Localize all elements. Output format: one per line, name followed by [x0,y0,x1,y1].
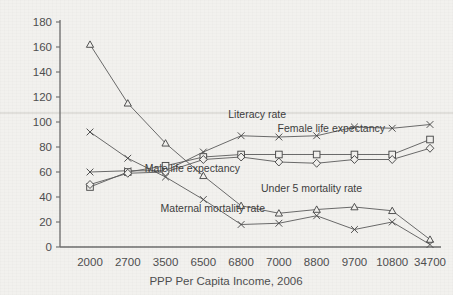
data-point-square [427,136,434,143]
data-series-group [86,41,434,248]
y-tick-label: 160 [33,41,52,53]
data-point-triangle [124,100,131,106]
series-polyline [90,140,430,188]
data-point-x [87,129,94,136]
y-tick-label: 0 [46,241,52,253]
y-tick-label: 80 [39,141,52,153]
data-point-x [351,226,358,233]
x-tick-label: 10800 [376,256,408,268]
x-tick-label: 34700 [414,256,446,268]
y-tick-label: 120 [33,91,52,103]
series-label: Female life expectancy [278,122,386,134]
series-male-life-expectancy [86,144,434,188]
x-axis: 2000270035006500680070008800970010800347… [60,247,446,268]
series-label: Male life expectancy [145,162,241,174]
y-tick-label: 100 [33,116,52,128]
data-point-triangle [86,41,93,47]
data-point-diamond [426,144,434,152]
data-point-square [276,151,283,158]
data-point-x [124,155,131,162]
data-point-diamond [313,159,321,167]
series-polyline [90,132,430,245]
x-tick-label: 7000 [266,256,292,268]
data-point-triangle [351,203,358,209]
chart-canvas: 020406080100120140160180 200027003500650… [0,0,453,295]
y-tick-label: 60 [39,166,52,178]
data-point-x [313,212,320,219]
y-tick-label: 20 [39,216,52,228]
x-tick-label: 6800 [228,256,254,268]
series-label: Under 5 mortality rate [261,182,362,194]
y-tick-label: 180 [33,16,52,28]
series-label: Maternal mortality rate [161,202,266,214]
series-annotations: Literacy rateFemale life expectancyMale … [145,108,386,214]
data-point-diamond [275,158,283,166]
y-tick-label: 140 [33,66,52,78]
x-tick-label: 3500 [153,256,179,268]
x-tick-label: 2000 [77,256,103,268]
series-polyline [90,148,430,184]
x-tick-label: 2700 [115,256,141,268]
data-point-x [389,219,396,226]
line-chart: 020406080100120140160180 200027003500650… [0,0,453,295]
x-tick-label: 8800 [304,256,330,268]
series-maternal-mortality-rate [87,129,434,248]
series-label: Literacy rate [228,108,286,120]
x-tick-label: 6500 [191,256,217,268]
x-tick-label: 9700 [342,256,368,268]
y-axis: 020406080100120140160180 [33,16,60,253]
x-axis-title: PPP Per Capita Income, 2006 [149,275,302,287]
y-tick-label: 40 [39,191,52,203]
data-point-square [313,151,320,158]
